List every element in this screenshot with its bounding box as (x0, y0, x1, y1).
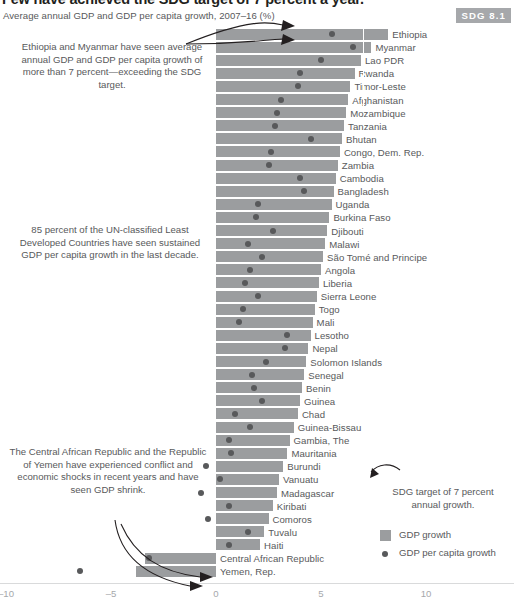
x-axis-tick-label: –5 (106, 588, 117, 599)
datapoint-guinea (259, 398, 265, 404)
category-label: Malawi (329, 239, 359, 250)
category-label: Bangladesh (338, 186, 389, 197)
bar-burundi (216, 461, 283, 472)
bar-vanuatu (216, 474, 279, 485)
category-label: Togo (319, 304, 340, 315)
bar-angola (216, 264, 321, 275)
bar-guinea (216, 395, 300, 406)
category-label: Nepal (312, 343, 337, 354)
bar-guinea-bissau (216, 422, 294, 433)
bar-lao-pdr (216, 55, 361, 66)
datapoint-kiribati (226, 503, 232, 509)
category-label: Guinea-Bissau (298, 422, 362, 433)
bar-central-african-republic (145, 553, 216, 564)
datapoint-bhutan (308, 136, 314, 142)
category-label: Sierra Leone (321, 291, 377, 302)
category-label: Cambodia (340, 173, 384, 184)
category-label: Congo, Dem. Rep. (344, 147, 424, 158)
datapoint-s-o-tom-and-principe (259, 254, 265, 260)
category-label: Zambia (342, 160, 374, 171)
bar-cambodia (216, 173, 336, 184)
bar-tuvalu (216, 526, 264, 537)
datapoint-benin (251, 385, 257, 391)
category-label: Haiti (264, 540, 283, 551)
bar-s-o-tom-and-principe (216, 251, 323, 262)
bar-bhutan (216, 133, 342, 144)
datapoint-malawi (245, 241, 251, 247)
category-label: Lesotho (315, 330, 350, 341)
datapoint-yemen-rep (77, 568, 83, 574)
annotation-ldc-growth: 85 percent of the UN-classified Least De… (10, 224, 210, 262)
legend-label: GDP per capita growth (399, 547, 496, 558)
square-swatch-icon (380, 530, 391, 541)
category-label: Vanuatu (283, 474, 318, 485)
datapoint-comoros (205, 516, 211, 522)
dot-swatch-icon (382, 551, 388, 557)
category-label: Bhutan (346, 134, 377, 145)
category-label: Kiribati (277, 501, 307, 512)
category-label: Central African Republic (220, 553, 324, 564)
bar-benin (216, 382, 302, 393)
bar-uganda (216, 199, 332, 210)
category-label: São Tomé and Principe (327, 252, 427, 263)
category-label: Liberia (323, 278, 352, 289)
bar-solomon-islands (216, 356, 306, 367)
datapoint-myanmar (350, 44, 356, 50)
datapoint-sierra-leone (255, 293, 261, 299)
bar-mauritania (216, 448, 287, 459)
category-label: Mozambique (350, 108, 405, 119)
bar-lesotho (216, 330, 311, 341)
x-axis-tick-label: 5 (318, 588, 323, 599)
bar-haiti (216, 539, 260, 550)
bar-malawi (216, 238, 325, 249)
category-label: Comoros (273, 514, 312, 525)
category-label: Guinea (304, 396, 335, 407)
category-label: Mauritania (291, 448, 336, 459)
legend-label: GDP growth (399, 529, 451, 540)
bar-tanzania (216, 120, 344, 131)
datapoint-solomon-islands (263, 359, 269, 365)
bar-comoros (216, 513, 269, 524)
bar-kiribati (216, 500, 273, 511)
bar-sierra-leone (216, 291, 317, 302)
category-label: Mali (317, 317, 335, 328)
datapoint-tuvalu (245, 529, 251, 535)
bar-rwanda (216, 68, 355, 79)
category-label: Afghanistan (352, 95, 403, 106)
category-label: Benin (306, 383, 331, 394)
sdg-target-reference-line (363, 29, 364, 108)
bar-togo (216, 304, 315, 315)
annotation-ethiopia-myanmar: Ethiopia and Myanmar have seen average a… (12, 41, 212, 91)
bar-burkina-faso (216, 212, 329, 223)
x-axis-line (0, 583, 514, 584)
datapoint-haiti (226, 542, 232, 548)
category-label: Gambia, The (294, 435, 350, 446)
category-label: Madagascar (281, 488, 334, 499)
bar-zambia (216, 160, 338, 171)
bar-timor-leste (216, 81, 350, 92)
category-label: Yemen, Rep. (220, 566, 276, 577)
category-label: Senegal (308, 370, 344, 381)
x-axis-tick-label: 0 (213, 588, 218, 599)
datapoint-mauritania (228, 450, 234, 456)
category-label: Burkina Faso (333, 212, 390, 223)
datapoint-zambia (266, 162, 272, 168)
category-label: Tanzania (348, 121, 387, 132)
datapoint-ethiopia (329, 31, 335, 37)
bar-bangladesh (216, 186, 334, 197)
datapoint-djibouti (270, 228, 276, 234)
bar-chad (216, 408, 298, 419)
category-label: Uganda (336, 199, 370, 210)
bar-nepal (216, 343, 308, 354)
bar-mozambique (216, 107, 346, 118)
category-label: Angola (325, 265, 355, 276)
bar-mali (216, 317, 313, 328)
datapoint-central-african-republic (146, 555, 152, 561)
x-axis-tick-label: –10 (0, 588, 14, 599)
category-label: Chad (302, 409, 325, 420)
category-label: Solomon Islands (310, 357, 382, 368)
bar-liberia (216, 277, 319, 288)
datapoint-congo-dem-rep (268, 149, 274, 155)
category-label: Tuvalu (268, 527, 297, 538)
datapoint-senegal (249, 372, 255, 378)
